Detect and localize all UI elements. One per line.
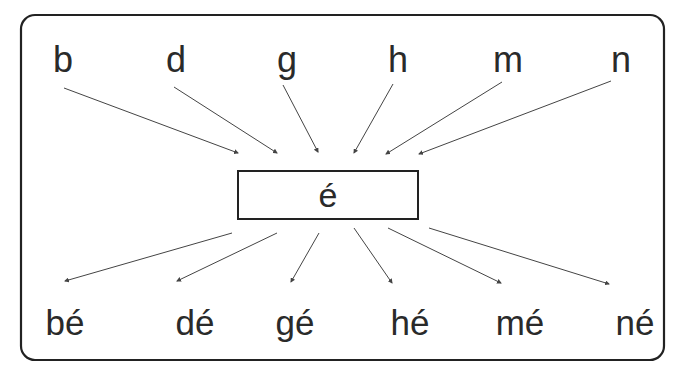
syllable-label: né	[616, 303, 655, 342]
consonant-label: n	[611, 39, 631, 80]
syllable-label: bé	[46, 303, 85, 342]
consonant-label: b	[53, 39, 73, 80]
center-vowel-label: é	[319, 176, 338, 214]
syllable-label: hé	[391, 303, 430, 342]
consonant-label: d	[166, 39, 186, 80]
consonant-label: h	[388, 39, 408, 80]
syllable-label: mé	[496, 303, 545, 342]
consonant-label: g	[277, 39, 297, 80]
consonant-label: m	[493, 39, 523, 80]
syllable-label: gé	[276, 303, 315, 342]
diagram-canvas: é b d g h m n bé dé gé hé mé né	[0, 0, 688, 375]
syllable-diagram: é b d g h m n bé dé gé hé mé né	[0, 0, 688, 375]
syllable-label: dé	[176, 303, 215, 342]
